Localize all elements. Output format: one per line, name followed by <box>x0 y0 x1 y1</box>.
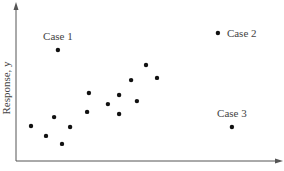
data-point <box>117 93 121 97</box>
data-point <box>85 110 89 114</box>
y-axis-arrowhead-icon <box>14 2 19 10</box>
data-point <box>52 115 56 119</box>
scatter-plot: Response, y Explanatory, x Case 1Case 2C… <box>0 0 284 171</box>
data-points <box>29 31 234 146</box>
case-point <box>216 31 220 35</box>
data-point <box>106 102 110 106</box>
data-point <box>60 142 64 146</box>
x-axis-label: Explanatory, x <box>118 169 183 171</box>
y-axis <box>14 2 19 161</box>
data-point <box>135 99 139 103</box>
case-point <box>230 125 234 129</box>
data-point <box>129 78 133 82</box>
case-label: Case 3 <box>217 107 247 119</box>
y-axis-label: Response, y <box>0 61 12 115</box>
data-point <box>155 76 159 80</box>
data-point <box>68 125 72 129</box>
data-point <box>144 63 148 67</box>
data-point <box>44 134 48 138</box>
data-point <box>29 124 33 128</box>
data-point <box>117 112 121 116</box>
case-labels: Case 1Case 2Case 3 <box>43 27 256 119</box>
case-label: Case 2 <box>227 27 257 39</box>
x-axis <box>16 159 283 164</box>
case-point <box>56 48 60 52</box>
case-label: Case 1 <box>43 30 73 42</box>
data-point <box>87 91 91 95</box>
x-axis-arrowhead-icon <box>275 159 283 164</box>
